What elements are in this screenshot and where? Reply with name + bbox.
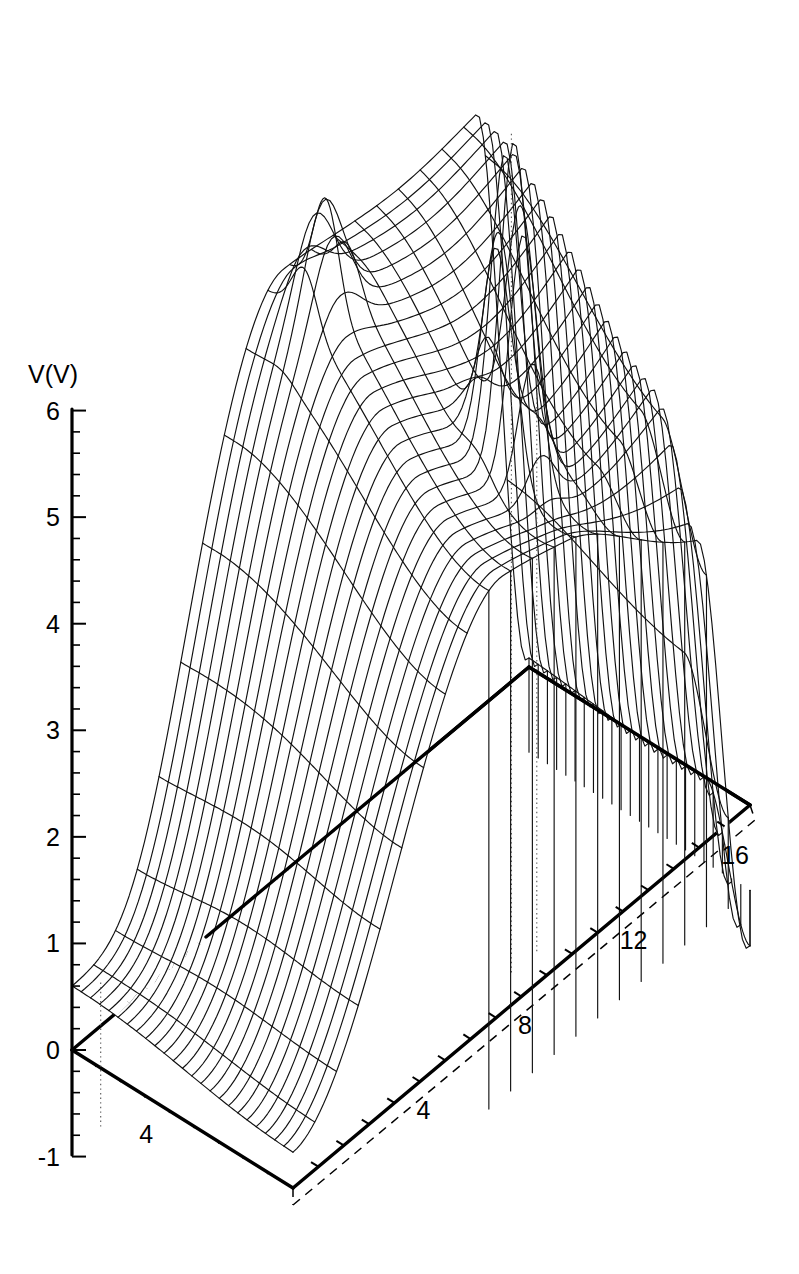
vertical-axis-tick-label: 3 bbox=[46, 716, 60, 744]
vertical-axis-tick-labels: 6543210-1 bbox=[38, 397, 60, 1171]
left-front-axis-tick bbox=[218, 1142, 219, 1143]
right-front-axis-tick-label: 12 bbox=[620, 926, 648, 954]
right-front-axis-tick bbox=[463, 1034, 470, 1039]
left-front-axis-tick bbox=[267, 1173, 268, 1174]
left-front-axis-tick-label: 4 bbox=[139, 1120, 153, 1148]
vertical-axis-title: V(V) bbox=[28, 360, 78, 388]
left-front-axis-tick bbox=[169, 1111, 170, 1112]
right-front-axis-tick bbox=[336, 1141, 343, 1146]
wireframe-surface bbox=[72, 115, 750, 1152]
vertical-axis-tick-label: 2 bbox=[46, 823, 60, 851]
right-front-axis-tick-labels: 481216 bbox=[417, 841, 749, 1124]
right-front-axis-tick bbox=[641, 886, 648, 891]
vertical-axis-tick-label: 1 bbox=[46, 929, 60, 957]
left-front-axis-tick bbox=[242, 1157, 243, 1158]
vertical-axis-tick-label: -1 bbox=[38, 1143, 60, 1171]
right-front-axis-tick bbox=[362, 1120, 369, 1125]
vertical-axis: 6543210-1 V(V) bbox=[28, 360, 86, 1171]
figure-container: 6543210-1 V(V) 4481216 bbox=[0, 0, 799, 1274]
vertical-axis-tick-label: 0 bbox=[46, 1036, 60, 1064]
right-front-axis-tick bbox=[489, 1013, 496, 1018]
right-front-axis-tick bbox=[438, 1056, 445, 1061]
right-front-axis-tick bbox=[666, 864, 673, 869]
vertical-axis-tick-label: 4 bbox=[46, 610, 60, 638]
right-front-axis-tick bbox=[565, 949, 572, 954]
base-slab-right-drop bbox=[750, 805, 755, 820]
right-front-axis-tick bbox=[692, 843, 699, 848]
right-front-axis-tick bbox=[387, 1098, 394, 1103]
right-front-axis-tick-label: 16 bbox=[721, 841, 749, 869]
mesh-facet bbox=[729, 889, 750, 946]
left-front-axis-tick-labels: 4 bbox=[139, 1120, 153, 1148]
right-front-axis-tick bbox=[514, 992, 521, 997]
surface-plot-svg: 6543210-1 V(V) 4481216 bbox=[0, 0, 799, 1274]
vertical-axis-tick-label: 5 bbox=[46, 503, 60, 531]
right-front-axis-tick bbox=[311, 1162, 318, 1167]
right-front-axis-tick-label: 4 bbox=[417, 1096, 431, 1124]
right-front-axis-tick bbox=[590, 928, 597, 933]
right-front-axis-tick bbox=[413, 1077, 420, 1082]
left-front-axis-tick bbox=[120, 1081, 121, 1082]
vertical-axis-tick-label: 6 bbox=[46, 397, 60, 425]
right-front-axis-tick-label: 8 bbox=[518, 1011, 532, 1039]
left-front-axis-tick bbox=[193, 1127, 194, 1128]
left-front-axis-tick bbox=[144, 1096, 145, 1097]
right-front-axis-tick bbox=[540, 971, 547, 976]
left-front-axis-tick bbox=[95, 1065, 96, 1066]
